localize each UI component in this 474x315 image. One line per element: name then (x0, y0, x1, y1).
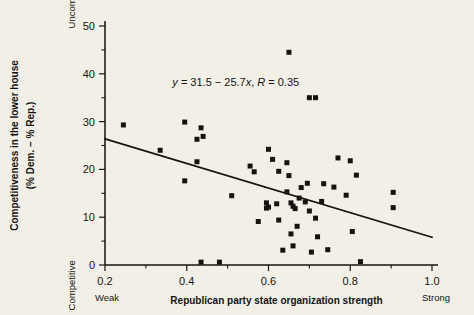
data-point (358, 259, 363, 264)
data-point (158, 148, 163, 153)
data-point (182, 178, 187, 183)
data-point (284, 160, 289, 165)
data-point (252, 169, 257, 174)
y-tick-label-0: 0 (89, 259, 95, 271)
data-point (344, 193, 349, 198)
data-point (303, 199, 308, 204)
data-point (194, 137, 199, 142)
data-point (313, 216, 318, 221)
x-tick-label-0.2: 0.2 (97, 275, 112, 287)
data-point (354, 173, 359, 178)
data-point (248, 164, 253, 169)
data-point (276, 169, 281, 174)
data-point (264, 200, 269, 205)
data-point (291, 243, 296, 248)
data-point (288, 231, 293, 236)
x-axis-end-label-weak: Weak (95, 292, 119, 303)
scatter-plot-figure: 010203040500.20.40.60.81.0y = 31.5 − 25.… (0, 0, 474, 315)
data-point (217, 260, 222, 265)
data-point (307, 95, 312, 100)
data-point (194, 159, 199, 164)
y-tick-label-30: 30 (83, 116, 95, 128)
y-tick-label-50: 50 (83, 20, 95, 32)
data-point (201, 134, 206, 139)
data-point (286, 50, 291, 55)
y-axis-title-line2: (% Dem. − % Rep.) (25, 102, 36, 190)
data-point (319, 199, 324, 204)
data-point (270, 157, 275, 162)
x-axis-title: Republican party state organization stre… (170, 295, 382, 306)
data-point (280, 248, 285, 253)
x-tick-label-0.8: 0.8 (343, 275, 358, 287)
data-point (325, 247, 330, 252)
data-point (266, 205, 271, 210)
y-axis-title-line1: Competitiveness in the lower house (9, 60, 20, 231)
data-point (348, 158, 353, 163)
data-point (266, 147, 271, 152)
data-point (297, 196, 302, 201)
y-tick-label-20: 20 (83, 163, 95, 175)
data-point (199, 125, 204, 130)
x-axis-end-label-strong: Strong (422, 292, 450, 303)
data-point (121, 122, 126, 127)
y-tick-label-10: 10 (83, 211, 95, 223)
data-point (391, 205, 396, 210)
x-tick-label-0.4: 0.4 (179, 275, 194, 287)
x-tick-label-1: 1.0 (424, 275, 439, 287)
data-point (182, 120, 187, 125)
data-point (307, 208, 312, 213)
data-point (331, 185, 336, 190)
data-point (350, 229, 355, 234)
data-point (295, 224, 300, 229)
y-axis-end-label-competitive: Competitive (66, 260, 77, 310)
regression-equation-annotation: y = 31.5 − 25.7x, R = 0.35 (171, 76, 299, 88)
data-point (299, 185, 304, 190)
data-point (315, 234, 320, 239)
data-point (321, 181, 326, 186)
y-tick-label-40: 40 (83, 68, 95, 80)
data-point (335, 155, 340, 160)
data-point (313, 95, 318, 100)
data-point (284, 189, 289, 194)
data-point (286, 173, 291, 178)
x-tick-label-0.6: 0.6 (261, 275, 276, 287)
data-point (305, 181, 310, 186)
data-point (309, 250, 314, 255)
data-point (199, 260, 204, 265)
data-point (274, 201, 279, 206)
data-point (276, 218, 281, 223)
data-point (256, 219, 261, 224)
data-point (293, 206, 298, 211)
data-point (229, 193, 234, 198)
y-axis-end-label-uncompetitive: Uncompetitive (66, 0, 77, 28)
data-point (391, 190, 396, 195)
